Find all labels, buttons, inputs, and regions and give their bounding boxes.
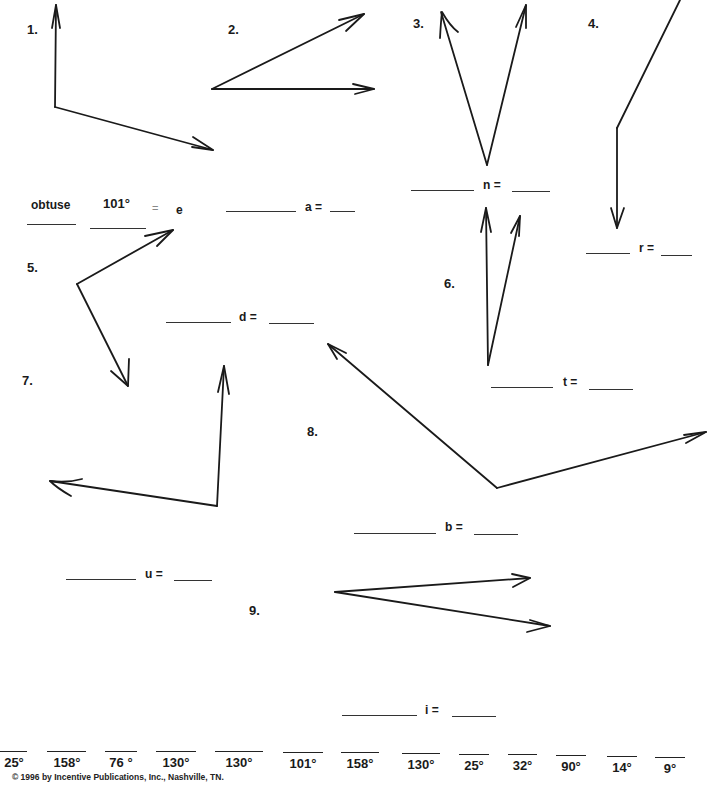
- angle-figure-1: [52, 5, 213, 150]
- answer-bank-rule: [283, 752, 323, 753]
- answer-bank-rule: [105, 751, 137, 752]
- type-blank-1: [27, 224, 76, 225]
- problem-number-2: 2.: [228, 22, 239, 37]
- answer-bank-item: 130°: [156, 755, 196, 770]
- answer-bank-rule: [402, 753, 440, 754]
- angle-figure-3: [440, 5, 526, 165]
- angle-figure-7: [50, 366, 229, 506]
- angle-figure-5: [77, 230, 173, 386]
- type-blank-9[interactable]: [342, 715, 417, 716]
- answer-bank-item: 130°: [402, 757, 440, 772]
- measure-blank-6[interactable]: [589, 389, 633, 390]
- angle-figure-8: [328, 344, 706, 488]
- angle-label-r: r =: [639, 241, 654, 255]
- measure-blank-3[interactable]: [512, 191, 550, 192]
- angle-figure-4: [611, 0, 680, 228]
- angle-label-u: u =: [145, 567, 163, 581]
- answer-bank-rule: [341, 752, 379, 753]
- angle-label-d: d =: [239, 310, 257, 324]
- answer-bank-rule: [215, 751, 263, 752]
- problem-number-1: 1.: [27, 22, 38, 37]
- copyright-footer: © 1996 by Incentive Publications, Inc., …: [12, 772, 224, 782]
- measure-blank-2[interactable]: [330, 211, 355, 212]
- type-blank-4[interactable]: [586, 253, 630, 254]
- answer-bank-rule: [508, 754, 537, 755]
- angle-label-a: a =: [305, 200, 322, 214]
- example-angle-measure: 101°: [103, 196, 130, 211]
- angle-label-n: n =: [483, 178, 501, 192]
- measure-blank-5[interactable]: [269, 323, 314, 324]
- problem-number-3: 3.: [413, 16, 424, 31]
- angle-label-e: e: [176, 203, 183, 217]
- example-angle-type: obtuse: [31, 198, 70, 212]
- problem-number-7: 7.: [22, 373, 33, 388]
- answer-bank-item: 76 °: [103, 755, 139, 770]
- angle-label-t: t =: [563, 375, 577, 389]
- angle-figures: [0, 0, 711, 788]
- angle-figure-6: [481, 208, 520, 365]
- angle-label-i: i =: [425, 703, 439, 717]
- type-blank-8[interactable]: [354, 533, 436, 534]
- answer-bank-rule: [0, 751, 27, 752]
- answer-bank-rule: [556, 755, 586, 756]
- answer-bank-item: 14°: [605, 760, 639, 775]
- problem-number-4: 4.: [588, 16, 599, 31]
- answer-bank-item: 25°: [0, 755, 28, 770]
- answer-bank-item: 158°: [341, 756, 379, 771]
- measure-blank-7[interactable]: [174, 580, 212, 581]
- angle-figure-9: [335, 574, 550, 632]
- measure-blank-1: [90, 228, 146, 229]
- equals-sign-1: =: [152, 202, 158, 214]
- answer-bank-item: 90°: [554, 759, 588, 774]
- type-blank-2[interactable]: [226, 211, 296, 212]
- answer-bank-item: 32°: [506, 758, 539, 773]
- answer-bank-item: 9°: [655, 761, 685, 776]
- measure-blank-8[interactable]: [474, 534, 518, 535]
- answer-bank-rule: [47, 751, 86, 752]
- problem-number-9: 9.: [249, 603, 260, 618]
- answer-bank-item: 158°: [47, 755, 87, 770]
- answer-bank-rule: [156, 751, 196, 752]
- problem-number-5: 5.: [27, 260, 38, 275]
- measure-blank-9[interactable]: [452, 716, 496, 717]
- angle-label-b: b =: [445, 520, 463, 534]
- measure-blank-4[interactable]: [661, 255, 692, 256]
- type-blank-6[interactable]: [491, 387, 553, 388]
- problem-number-8: 8.: [307, 424, 318, 439]
- type-blank-5[interactable]: [166, 322, 231, 323]
- answer-bank-rule: [459, 754, 489, 755]
- problem-number-6: 6.: [444, 276, 455, 291]
- answer-bank-rule: [607, 756, 637, 757]
- type-blank-3[interactable]: [411, 190, 474, 191]
- answer-bank-rule: [655, 757, 685, 758]
- answer-bank-item: 101°: [283, 756, 323, 771]
- answer-bank-item: 25°: [457, 758, 491, 773]
- answer-bank-item: 130°: [215, 755, 263, 770]
- type-blank-7[interactable]: [66, 579, 136, 580]
